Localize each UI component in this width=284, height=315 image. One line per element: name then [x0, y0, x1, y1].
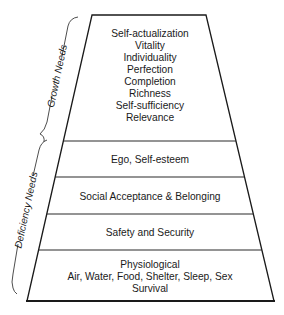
- deficiency-needs-label: Deficiency Needs: [13, 171, 40, 249]
- level-text-richness: Richness: [129, 88, 171, 99]
- level-text-survival: Survival: [132, 283, 168, 294]
- level-text-individuality: Individuality: [123, 52, 177, 63]
- level-ego: Ego, Self-esteem: [111, 154, 189, 165]
- level-text-physiological: Physiological: [120, 259, 179, 270]
- level-text-perfection: Perfection: [127, 64, 173, 75]
- level-text-vitality: Vitality: [135, 40, 166, 51]
- level-growth-needs: Self-actualization Vitality Individualit…: [111, 28, 189, 123]
- level-text-safety-security: Safety and Security: [106, 227, 195, 238]
- level-text-completion: Completion: [124, 76, 176, 87]
- level-text-ego-self-esteem: Ego, Self-esteem: [111, 154, 189, 165]
- growth-needs-label: Growth Needs: [45, 44, 69, 109]
- needs-pyramid-diagram: Self-actualization Vitality Individualit…: [0, 0, 284, 315]
- level-text-relevance: Relevance: [126, 112, 174, 123]
- level-safety: Safety and Security: [106, 227, 195, 238]
- level-text-basic-needs: Air, Water, Food, Shelter, Sleep, Sex: [68, 271, 233, 282]
- level-physiological: Physiological Air, Water, Food, Shelter,…: [68, 259, 233, 294]
- level-text-self-actualization: Self-actualization: [111, 28, 189, 39]
- level-social: Social Acceptance & Belonging: [79, 191, 220, 202]
- level-text-social-acceptance: Social Acceptance & Belonging: [79, 191, 220, 202]
- level-text-self-sufficiency: Self-sufficiency: [116, 100, 185, 111]
